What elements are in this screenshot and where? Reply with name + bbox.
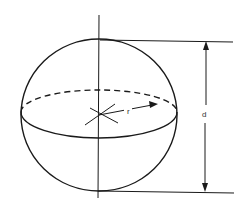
center-mark-line-2	[90, 108, 118, 123]
radius-label: r	[127, 107, 130, 116]
vertical-axis	[98, 15, 99, 198]
radius-arrowhead-icon	[149, 101, 158, 108]
diameter-label: d	[202, 110, 206, 119]
bottom-extension-line	[98, 191, 234, 193]
diameter-arrow-up-icon	[203, 41, 209, 50]
equator-front	[21, 112, 177, 138]
sphere-diagram: r d	[0, 0, 249, 209]
diameter-arrow-down-icon	[202, 183, 208, 192]
